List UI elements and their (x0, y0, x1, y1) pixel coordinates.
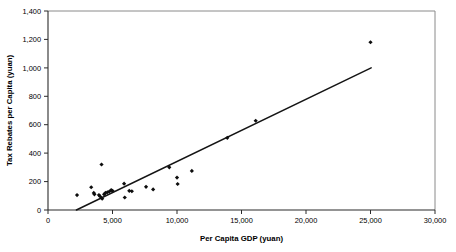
y-axis-title: Tax Rebates per Capita (yuan) (5, 54, 14, 166)
x-tick-label: 15,000 (230, 216, 253, 225)
y-tick-label: 1,400 (23, 7, 42, 16)
x-tick-label: 10,000 (166, 216, 189, 225)
data-point (151, 187, 155, 191)
chart-canvas: 0 200 400 600 800 1,000 1,200 1,400 0 5,… (0, 0, 456, 252)
data-point (176, 182, 180, 186)
y-tick-label: 200 (29, 177, 41, 186)
data-point (89, 185, 93, 189)
x-tick-label: 5,000 (103, 216, 122, 225)
x-axis-ticks: 0 5,000 10,000 15,000 20,000 25,000 30,0… (46, 210, 446, 225)
data-point (190, 169, 194, 173)
data-point (122, 182, 126, 186)
scatter-chart-figure: 0 200 400 600 800 1,000 1,200 1,400 0 5,… (0, 0, 456, 252)
y-axis-ticks: 0 200 400 600 800 1,000 1,200 1,400 (23, 7, 49, 215)
data-point (175, 175, 179, 179)
y-tick-label: 600 (29, 120, 41, 129)
plot-frame-border (48, 11, 435, 210)
x-tick-label: 30,000 (424, 216, 447, 225)
data-point (144, 185, 148, 189)
y-tick-label: 0 (37, 206, 41, 215)
plot-frame (48, 11, 435, 210)
x-tick-label: 0 (46, 216, 50, 225)
y-tick-label: 400 (29, 149, 41, 158)
data-point (99, 162, 103, 166)
x-axis-title: Per Capita GDP (yuan) (200, 234, 283, 243)
x-tick-label: 25,000 (359, 216, 382, 225)
y-tick-label: 800 (29, 92, 41, 101)
trend-line (76, 68, 371, 210)
y-tick-label: 1,000 (23, 64, 42, 73)
data-point (130, 189, 134, 193)
x-tick-label: 20,000 (295, 216, 318, 225)
data-points-layer (75, 40, 373, 201)
data-point (368, 40, 372, 44)
data-point (75, 193, 79, 197)
y-tick-label: 1,200 (23, 35, 42, 44)
data-point (123, 195, 127, 199)
